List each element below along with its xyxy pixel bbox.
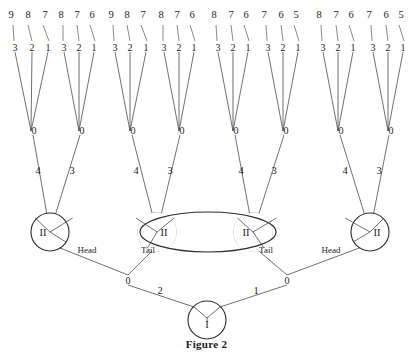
root-branch-label-1: 1 — [253, 285, 258, 296]
action-label-1-1: 2 — [77, 42, 82, 53]
payoff-label-5-2: 5 — [293, 9, 298, 20]
figure-2-game-tree: 9873218763219873218763218763217653218763… — [0, 0, 413, 356]
chance-node-label-3: 0 — [180, 125, 185, 136]
chance-node-label-6: 0 — [339, 125, 344, 136]
second-branch-label-3: 3 — [167, 165, 172, 176]
action-label-0-1: 2 — [30, 42, 35, 53]
payoff-label-7-2: 5 — [398, 9, 403, 20]
chance-node-label-1: 0 — [80, 125, 85, 136]
action-label-6-1: 2 — [336, 42, 341, 53]
leaf-branch-group — [15, 52, 403, 131]
chance-node-label-0: 0 — [32, 125, 37, 136]
payoff-stub-2-0 — [113, 25, 114, 41]
second-branch-label-0: 4 — [35, 165, 41, 176]
coin-label-2: Tail — [259, 245, 273, 255]
second-level-branch-group — [33, 135, 389, 232]
second-branch-label-4: 4 — [238, 165, 244, 176]
leaf-branch-3-0 — [164, 52, 179, 131]
payoff-label-5-1: 6 — [278, 9, 283, 20]
chance-node-label-5: 0 — [284, 125, 289, 136]
payoff-label-0-0: 9 — [8, 9, 13, 20]
payoff-stub-7-0 — [371, 25, 372, 41]
leaf-branch-0-1 — [31, 52, 32, 131]
action-label-5-0: 3 — [266, 42, 271, 53]
player-two-node-label-3: II — [374, 227, 381, 238]
payoff-label-3-1: 7 — [174, 9, 179, 20]
payoff-stub-3-2 — [190, 25, 195, 41]
leaf-branch-0-0 — [15, 52, 31, 131]
payoff-stub-5-1 — [281, 25, 283, 41]
player-two-node-label-0: II — [40, 227, 47, 238]
payoff-label-5-0: 7 — [261, 9, 266, 20]
leaf-branch-1-2 — [79, 52, 94, 131]
leaf-branch-6-2 — [338, 52, 353, 131]
payoff-stub-0-2 — [43, 25, 49, 41]
action-label-3-0: 3 — [162, 42, 167, 53]
mid-chance-label-0: 0 — [126, 275, 131, 286]
action-label-0-0: 3 — [13, 42, 18, 53]
payoff-label-0-1: 8 — [25, 9, 30, 20]
coin-label-0: Head — [78, 245, 97, 255]
payoff-stub-2-1 — [127, 25, 130, 41]
action-label-7-1: 2 — [386, 42, 391, 53]
payoff-label-4-2: 6 — [243, 9, 248, 20]
action-label-2-1: 2 — [128, 42, 133, 53]
action-label-0-2: 1 — [46, 42, 51, 53]
node-shape-group — [31, 212, 389, 339]
coin-label-3: Head — [322, 245, 341, 255]
game-tree-svg: 9873218763219873218763218763217653218763… — [0, 0, 413, 356]
payoff-label-6-2: 6 — [348, 9, 353, 20]
text-label-group: 9873218763219873218763218763217653218763… — [8, 9, 405, 330]
second-branch-label-2: 4 — [133, 165, 139, 176]
action-label-7-0: 3 — [371, 42, 376, 53]
payoff-label-3-2: 6 — [189, 9, 194, 20]
payoff-label-2-1: 8 — [124, 9, 129, 20]
action-label-3-1: 2 — [177, 42, 182, 53]
payoff-label-1-2: 6 — [89, 9, 94, 20]
leaf-branch-3-2 — [179, 52, 194, 131]
action-label-4-1: 2 — [231, 42, 236, 53]
chance-node-label-4: 0 — [234, 125, 239, 136]
action-label-6-2: 1 — [351, 42, 356, 53]
payoff-stub-3-1 — [177, 25, 179, 41]
leaf-branch-5-2 — [283, 52, 298, 131]
leaf-branch-5-0 — [268, 52, 283, 131]
action-label-1-0: 3 — [62, 42, 67, 53]
action-label-3-2: 1 — [192, 42, 197, 53]
leaf-branch-0-2 — [31, 52, 48, 131]
payoff-stub-1-2 — [90, 25, 95, 41]
payoff-label-2-2: 7 — [140, 9, 145, 20]
action-label-4-2: 1 — [246, 42, 251, 53]
payoff-stub-6-0 — [321, 25, 322, 41]
action-label-5-2: 1 — [296, 42, 301, 53]
payoff-label-6-0: 8 — [316, 9, 321, 20]
second-branch-label-1: 3 — [69, 165, 74, 176]
player-two-node-label-2: II — [243, 227, 250, 238]
figure-caption: Figure 2 — [0, 338, 413, 350]
mid-chance-label-1: 0 — [285, 275, 290, 286]
payoff-stub-7-1 — [386, 25, 388, 41]
payoff-stub-5-2 — [294, 25, 299, 41]
payoff-stub-4-0 — [216, 25, 217, 41]
chance-node-label-2: 0 — [131, 125, 136, 136]
payoff-stub-4-2 — [244, 25, 249, 41]
payoff-stub-5-0 — [266, 25, 267, 41]
player-two-node-label-1: II — [161, 227, 168, 238]
action-label-2-2: 1 — [144, 42, 149, 53]
payoff-stub-0-0 — [13, 25, 14, 41]
payoff-label-4-0: 8 — [211, 9, 216, 20]
leaf-branch-4-0 — [218, 52, 233, 131]
payoff-label-1-0: 8 — [58, 9, 63, 20]
payoff-label-4-1: 7 — [228, 9, 233, 20]
payoff-stub-6-1 — [336, 25, 338, 41]
payoff-label-6-1: 7 — [333, 9, 338, 20]
leaf-branch-7-0 — [373, 52, 388, 131]
leaf-branch-2-0 — [115, 52, 130, 131]
leaf-stub-group — [13, 25, 404, 41]
second-branch-label-7: 3 — [376, 165, 381, 176]
leaf-branch-7-2 — [388, 52, 403, 131]
root-branch-label-0: 2 — [157, 285, 162, 296]
action-label-2-0: 3 — [113, 42, 118, 53]
player-one-root-label: I — [205, 319, 209, 330]
action-label-5-1: 2 — [281, 42, 286, 53]
